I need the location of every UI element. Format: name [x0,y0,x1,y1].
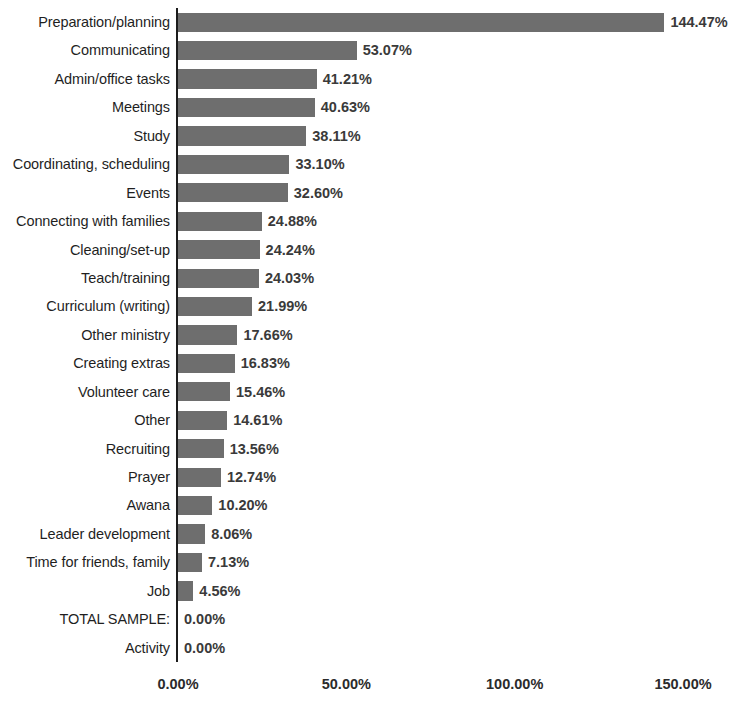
bar-value-label: 33.10% [289,150,344,178]
category-label: Volunteer care [78,378,170,406]
bar-row: Activity0.00% [0,634,756,662]
bar-value-label: 40.63% [315,93,370,121]
bar-value-label: 13.56% [224,435,279,463]
bar [178,411,227,430]
bar-row: Communicating53.07% [0,36,756,64]
bar-row: Awana10.20% [0,491,756,519]
bar-row: Events32.60% [0,179,756,207]
category-label: Other [134,406,170,434]
horizontal-bar-chart: Preparation/planning144.47%Communicating… [0,0,756,713]
bar-value-label: 16.83% [235,349,290,377]
category-label: Time for friends, family [26,548,170,576]
bar-value-label: 0.00% [178,605,225,633]
plot-area: Preparation/planning144.47%Communicating… [0,0,756,713]
bar-value-label: 14.61% [227,406,282,434]
bar-value-label: 41.21% [317,65,372,93]
category-label: Communicating [71,36,170,64]
bar-row: Volunteer care15.46% [0,378,756,406]
bar-value-label: 0.00% [178,634,225,662]
category-label: Leader development [40,520,170,548]
bar-rows: Preparation/planning144.47%Communicating… [0,8,756,662]
bar-value-label: 21.99% [252,292,307,320]
bar [178,354,235,373]
x-tick-label: 100.00% [486,676,543,692]
bar-row: Coordinating, scheduling33.10% [0,150,756,178]
category-label: Events [126,179,170,207]
bar [178,98,315,117]
bar-row: Other14.61% [0,406,756,434]
bar [178,468,221,487]
category-label: Curriculum (writing) [46,292,170,320]
x-tick-label: 150.00% [654,676,711,692]
bar-row: Other ministry17.66% [0,321,756,349]
bar-value-label: 12.74% [221,463,276,491]
bar-row: Teach/training24.03% [0,264,756,292]
bar-row: Admin/office tasks41.21% [0,65,756,93]
bar [178,240,260,259]
bar-value-label: 53.07% [357,36,412,64]
category-label: Teach/training [81,264,170,292]
bar-value-label: 7.13% [202,548,249,576]
bar [178,155,289,174]
category-label: Prayer [128,463,170,491]
bar [178,496,212,515]
bar-row: Leader development8.06% [0,520,756,548]
category-label: Connecting with families [16,207,170,235]
bar-value-label: 24.88% [262,207,317,235]
bar-value-label: 17.66% [237,321,292,349]
bar-row: Time for friends, family7.13% [0,548,756,576]
category-label: Job [147,577,170,605]
category-label: Admin/office tasks [54,65,170,93]
bar-row: Meetings40.63% [0,93,756,121]
bar-row: Recruiting13.56% [0,435,756,463]
bar [178,297,252,316]
category-label: Awana [126,491,170,519]
bar [178,13,664,32]
bar-row: Study38.11% [0,122,756,150]
category-label: Creating extras [73,349,170,377]
bar [178,524,205,543]
category-label: Recruiting [106,435,170,463]
bar-value-label: 4.56% [193,577,240,605]
bar-value-label: 38.11% [306,122,360,150]
category-label: Activity [125,634,170,662]
bar [178,382,230,401]
x-tick-label: 0.00% [157,676,198,692]
bar [178,41,357,60]
category-label: TOTAL SAMPLE: [60,605,170,633]
bar-row: Cleaning/set-up24.24% [0,236,756,264]
category-label: Other ministry [81,321,170,349]
bar [178,325,237,344]
bar-value-label: 10.20% [212,491,267,519]
bar [178,69,317,88]
bar-row: Creating extras16.83% [0,349,756,377]
bar [178,212,262,231]
bar-row: Job4.56% [0,577,756,605]
category-label: Study [133,122,170,150]
bar-row: Prayer12.74% [0,463,756,491]
x-tick-label: 50.00% [322,676,371,692]
category-label: Coordinating, scheduling [13,150,170,178]
category-label: Preparation/planning [38,8,170,36]
category-label: Meetings [112,93,170,121]
bar-row: Preparation/planning144.47% [0,8,756,36]
bar-value-label: 15.46% [230,378,285,406]
bar [178,439,224,458]
bar-row: Connecting with families24.88% [0,207,756,235]
bar-value-label: 8.06% [205,520,252,548]
bar-value-label: 144.47% [664,8,727,36]
category-label: Cleaning/set-up [70,236,170,264]
bar [178,126,306,145]
bar [178,553,202,572]
bar [178,183,288,202]
bar [178,269,259,288]
bar-value-label: 32.60% [288,179,343,207]
bar-value-label: 24.24% [260,236,315,264]
bar [178,581,193,600]
bar-value-label: 24.03% [259,264,314,292]
x-axis-tick-labels: 0.00%50.00%100.00%150.00% [0,676,756,700]
bar-row: TOTAL SAMPLE:0.00% [0,605,756,633]
bar-row: Curriculum (writing)21.99% [0,292,756,320]
